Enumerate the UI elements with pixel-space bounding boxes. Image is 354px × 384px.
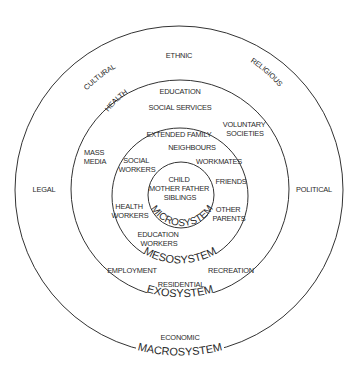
label-social-workers: SOCIAL WORKERS (119, 156, 156, 174)
label-cultural: CULTURAL (82, 62, 117, 92)
label-ethnic: ETHNIC (166, 51, 193, 60)
label-microsystem: MICROSYSTEM (149, 203, 215, 228)
label-health: HEALTH (103, 87, 129, 113)
ecological-systems-diagram: CULTURAL ETHNIC RELIGIOUS LEGAL POLITICA… (0, 0, 354, 384)
label-employment: EMPLOYMENT (107, 266, 157, 275)
label-neighbours: NEIGHBOURS (168, 143, 216, 152)
label-social-services: SOCIAL SERVICES (148, 103, 211, 112)
label-other-parents: OTHER PARENTS (213, 205, 246, 223)
label-political: POLITICAL (296, 185, 332, 194)
label-health-workers: HEALTH WORKERS (112, 202, 149, 220)
label-mass-media: MASS MEDIA (84, 148, 107, 166)
label-education: EDUCATION (159, 87, 200, 96)
label-extended-family: EXTENDED FAMILY (146, 130, 211, 139)
label-workmates: WORKMATES (196, 157, 242, 166)
label-economic: ECONOMIC (160, 333, 200, 342)
label-friends: FRIENDS (215, 177, 246, 186)
label-microsystem-center: CHILD MOTHER FATHER SIBLINGS (149, 175, 211, 202)
label-recreation: RECREATION (208, 266, 254, 275)
label-legal: LEGAL (33, 185, 56, 194)
label-education-workers: EDUCATION WORKERS (137, 230, 180, 248)
label-voluntary-societies: VOLUNTARY SOCIETIES (223, 120, 267, 138)
